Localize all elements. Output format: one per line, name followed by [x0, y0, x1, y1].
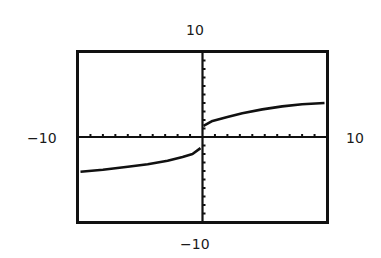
axes: [78, 52, 327, 222]
curve-right: [204, 103, 325, 126]
curve-left: [81, 148, 201, 172]
graph-plot: [0, 0, 381, 258]
